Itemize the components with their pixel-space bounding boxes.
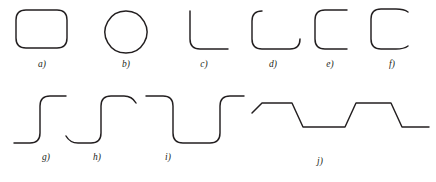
shape-d-u-channel-two-rounded-corners [252,11,300,49]
shape-e-c-bracket-two-rounded-corners [315,10,347,49]
shape-i-rectangular-pulse-rounded [146,96,244,143]
shape-c-single-rounded-corner-elbow [190,11,228,49]
labels-layer: a)b)c)d)e)f)g)h)i)j) [38,59,395,167]
figure-container: a)b)c)d)e)f)g)h)i)j) [0,0,436,182]
shape-b-circle [105,11,147,53]
shape-label-e: e) [326,59,333,70]
shape-label-j: j) [315,156,323,167]
shape-j-trapezoidal-wave-chamfered [252,103,429,127]
shapes-layer [14,9,429,143]
shape-label-c: c) [200,59,207,70]
shape-label-g: g) [42,152,50,163]
shape-g-step-up-rounded [14,96,66,143]
shape-label-i: i) [165,152,171,163]
shape-h-step-up-rounded-with-terminal-fillets [66,96,136,143]
shape-label-d: d) [269,59,277,70]
shape-label-a: a) [38,59,46,70]
shape-diagram-canvas: a)b)c)d)e)f)g)h)i)j) [0,0,436,182]
shape-label-b: b) [122,59,130,70]
shape-a-rounded-rectangle [16,10,67,48]
shape-label-h: h) [93,152,101,163]
shape-label-f: f) [389,59,395,70]
shape-f-c-bracket-four-rounded-corners [371,9,408,49]
